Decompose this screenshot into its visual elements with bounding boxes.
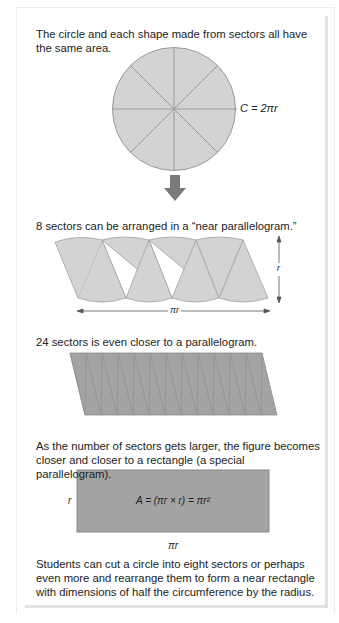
step2-caption: 24 sectors is even closer to a parallelo…	[36, 335, 321, 349]
step3-caption: As the number of sectors gets larger, th…	[36, 439, 321, 481]
conclusion-text: Students can cut a circle into eight sec…	[36, 557, 321, 599]
down-arrow-icon	[164, 175, 186, 201]
step1-width-label: πr	[168, 305, 181, 315]
step1-height-label: r	[276, 263, 281, 273]
twenty-four-sector-parallelogram	[70, 353, 277, 415]
eight-sector-parallelogram	[55, 237, 268, 302]
step1-caption: 8 sectors can be arranged in a “near par…	[36, 219, 321, 233]
sector-circle	[113, 48, 238, 171]
circumference-label: C = 2πr	[240, 102, 278, 114]
rectangle-height-label: r	[68, 495, 71, 506]
rectangle-width-label: πr	[168, 540, 178, 551]
area-formula: A = (πr × r) = πr²	[77, 495, 269, 506]
